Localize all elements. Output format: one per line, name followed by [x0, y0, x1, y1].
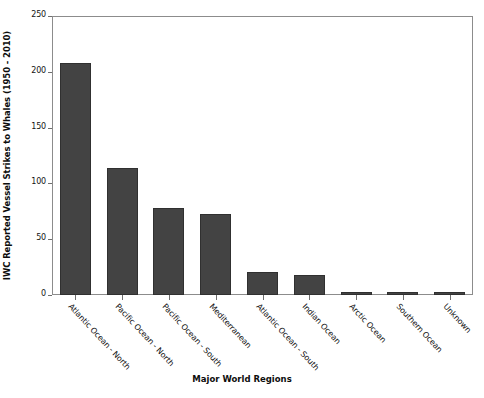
- bar: [60, 63, 91, 295]
- y-tick: 200: [0, 72, 52, 73]
- x-axis-title: Major World Regions: [0, 374, 484, 384]
- y-tick-label: 100: [31, 177, 46, 186]
- x-tick-label: Indian Ocean: [301, 302, 343, 346]
- x-tick-mark: [403, 295, 404, 300]
- bar: [200, 214, 231, 295]
- x-tick-label: Unknown: [441, 302, 472, 335]
- bar: [153, 208, 184, 295]
- x-tick-mark: [216, 295, 217, 300]
- y-tick: 0: [0, 295, 52, 296]
- y-tick-label: 0: [41, 289, 46, 298]
- y-tick-label: 250: [31, 10, 46, 19]
- y-tick-label: 200: [31, 66, 46, 75]
- x-tick-label: Mediterranean: [207, 302, 253, 350]
- y-tick-mark: [48, 295, 52, 296]
- y-tick: 100: [0, 183, 52, 184]
- x-tick-mark: [75, 295, 76, 300]
- y-tick: 150: [0, 128, 52, 129]
- x-tick-mark: [309, 295, 310, 300]
- x-tick-label: Arctic Ocean: [347, 302, 387, 344]
- x-tick-mark: [122, 295, 123, 300]
- y-tick: 250: [0, 16, 52, 17]
- y-axis-title: IWC Reported Vessel Strikes to Whales (1…: [0, 16, 14, 295]
- x-tick-mark: [169, 295, 170, 300]
- bar: [107, 168, 138, 295]
- bar: [294, 275, 325, 295]
- y-tick-label: 150: [31, 122, 46, 131]
- bar-chart: IWC Reported Vessel Strikes to Whales (1…: [0, 0, 484, 398]
- bars-layer: [52, 16, 473, 295]
- x-tick-mark: [356, 295, 357, 300]
- y-tick: 50: [0, 239, 52, 240]
- y-tick-label: 50: [36, 233, 46, 242]
- x-tick-mark: [263, 295, 264, 300]
- x-tick-mark: [450, 295, 451, 300]
- bar: [247, 272, 278, 295]
- x-tick-label: Southern Ocean: [394, 302, 444, 354]
